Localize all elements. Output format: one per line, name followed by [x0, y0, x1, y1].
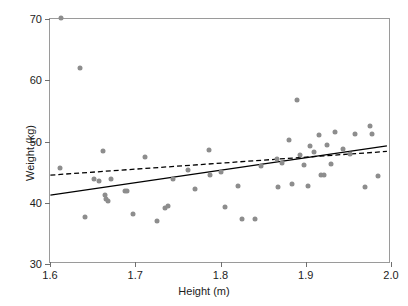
- x-tick-mark: [306, 262, 307, 267]
- data-point: [124, 189, 129, 194]
- data-point: [295, 97, 300, 102]
- y-tick-mark: [45, 80, 50, 81]
- y-tick-mark: [45, 203, 50, 204]
- data-point: [325, 142, 330, 147]
- data-point: [100, 149, 105, 154]
- data-point: [297, 152, 302, 157]
- data-point: [206, 148, 211, 153]
- data-point: [276, 185, 281, 190]
- data-point: [192, 187, 197, 192]
- data-point: [82, 215, 87, 220]
- data-point: [96, 178, 101, 183]
- y-tick-label: 40: [30, 197, 42, 209]
- data-point: [370, 132, 375, 137]
- data-point: [341, 147, 346, 152]
- x-tick-mark: [221, 262, 222, 267]
- x-tick-label: 1.6: [42, 269, 57, 281]
- data-point: [170, 176, 175, 181]
- plot-area: 3040506070 1.61.71.81.92.0: [49, 18, 390, 263]
- data-point: [308, 144, 313, 149]
- data-point: [58, 165, 63, 170]
- x-tick-label: 2.0: [383, 269, 398, 281]
- data-point: [77, 66, 82, 71]
- data-point: [143, 155, 148, 160]
- data-point: [367, 124, 372, 129]
- y-tick-label: 30: [30, 258, 42, 270]
- x-axis-title: Height (m): [0, 285, 408, 297]
- data-point: [376, 174, 381, 179]
- data-point: [306, 184, 311, 189]
- y-tick-mark: [45, 142, 50, 143]
- data-point: [59, 15, 64, 20]
- data-point: [279, 160, 284, 165]
- data-point: [348, 152, 353, 157]
- y-tick-mark: [45, 19, 50, 20]
- x-tick-label: 1.8: [213, 269, 228, 281]
- data-point: [130, 212, 135, 217]
- x-tick-mark: [135, 262, 136, 267]
- y-tick-label: 60: [30, 74, 42, 86]
- y-axis-title: Weight (kg): [24, 125, 36, 181]
- data-point: [222, 205, 227, 210]
- data-point: [235, 183, 240, 188]
- data-point: [186, 168, 191, 173]
- data-point: [329, 161, 334, 166]
- data-point: [165, 203, 170, 208]
- data-point: [332, 129, 337, 134]
- scatter-chart-figure: Weight (kg) 3040506070 1.61.71.81.92.0 H…: [0, 0, 408, 306]
- data-point: [274, 156, 279, 161]
- x-tick-mark: [50, 262, 51, 267]
- data-point: [239, 216, 244, 221]
- data-point: [218, 170, 223, 175]
- data-point: [259, 164, 264, 169]
- data-point: [105, 198, 110, 203]
- data-point: [363, 184, 368, 189]
- data-point: [208, 172, 213, 177]
- data-point: [312, 149, 317, 154]
- data-point: [321, 173, 326, 178]
- y-tick-label: 70: [30, 13, 42, 25]
- data-point: [302, 162, 307, 167]
- data-point: [108, 177, 113, 182]
- x-tick-label: 1.9: [298, 269, 313, 281]
- data-point: [353, 131, 358, 136]
- x-tick-label: 1.7: [128, 269, 143, 281]
- data-point: [286, 138, 291, 143]
- y-tick-label: 50: [30, 136, 42, 148]
- x-tick-mark: [391, 262, 392, 267]
- fit-lines-layer: [50, 19, 389, 262]
- data-point: [154, 219, 159, 224]
- data-point: [290, 181, 295, 186]
- data-point: [316, 133, 321, 138]
- data-point: [252, 217, 257, 222]
